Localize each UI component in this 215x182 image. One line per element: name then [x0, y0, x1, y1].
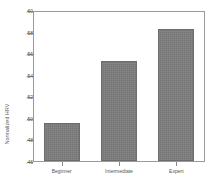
- y-axis-tick-label: .56: [7, 51, 33, 57]
- y-axis-title: Normalized HRV: [0, 0, 14, 182]
- x-axis-tick: [62, 162, 63, 166]
- bar-slot: [34, 12, 91, 161]
- bar-chart-figure: Normalized HRV .46.48.50.52.54.56.58.60 …: [0, 0, 215, 182]
- bar-beginner: [44, 123, 80, 161]
- plot-area: [33, 11, 205, 162]
- y-axis-tick-label: .60: [7, 8, 33, 14]
- y-axis-tick-label: .58: [7, 30, 33, 36]
- bars-container: [34, 12, 204, 161]
- y-axis-tick-label: .50: [7, 116, 33, 122]
- bar-slot: [147, 12, 204, 161]
- x-axis-tick: [176, 162, 177, 166]
- bar-intermediate: [101, 61, 137, 161]
- bar-slot: [91, 12, 148, 161]
- y-axis-tick-label: .52: [7, 94, 33, 100]
- bar-expert: [158, 29, 194, 161]
- x-axis-tick-label: Expert: [169, 168, 183, 174]
- x-axis-tick-label: Intermediate: [105, 168, 133, 174]
- y-axis-tick-label: .46: [7, 159, 33, 165]
- y-axis-tick-label: .54: [7, 73, 33, 79]
- x-axis-tick: [119, 162, 120, 166]
- x-axis-tick-label: Beginner: [52, 168, 72, 174]
- y-axis-tick-label: .48: [7, 137, 33, 143]
